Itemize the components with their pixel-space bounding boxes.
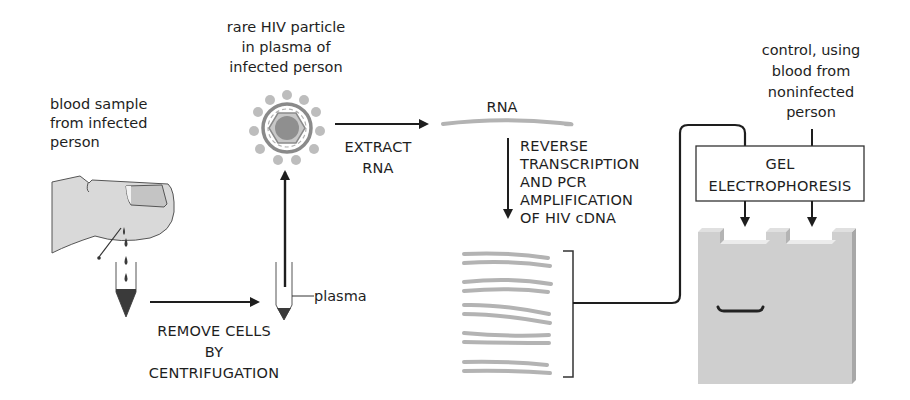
- svg-text:person: person: [50, 134, 100, 150]
- svg-text:ELECTROPHORESIS: ELECTROPHORESIS: [709, 178, 852, 194]
- svg-text:REMOVE CELLS: REMOVE CELLS: [157, 323, 271, 339]
- rna-label: RNA: [487, 99, 518, 115]
- svg-text:RNA: RNA: [362, 160, 393, 176]
- svg-text:control, using: control, using: [762, 42, 861, 58]
- finger-icon: [52, 176, 174, 253]
- rt-pcr-label: REVERSE TRANSCRIPTION AND PCR AMPLIFICAT…: [519, 138, 640, 226]
- svg-text:person: person: [786, 104, 836, 120]
- amplified-cdna-strands: [464, 254, 551, 374]
- svg-text:EXTRACT: EXTRACT: [344, 139, 411, 155]
- svg-text:AMPLIFICATION: AMPLIFICATION: [520, 192, 633, 208]
- svg-text:OF HIV cDNA: OF HIV cDNA: [520, 210, 616, 226]
- rna-strand: [443, 120, 571, 124]
- svg-text:REVERSE: REVERSE: [520, 138, 588, 154]
- svg-text:noninfected: noninfected: [768, 84, 854, 100]
- svg-text:AND PCR: AND PCR: [520, 174, 587, 190]
- gel-slab: [698, 228, 856, 384]
- blood-sample-label: blood sample from infected person: [50, 96, 148, 150]
- cdna-bracket: [563, 251, 573, 377]
- hiv-rt-pcr-diagram: blood sample from infected person REMOVE…: [0, 0, 910, 400]
- blood-tube-icon: [116, 262, 136, 317]
- svg-text:in plasma of: in plasma of: [241, 39, 331, 55]
- svg-text:BY: BY: [205, 344, 223, 360]
- svg-text:rare HIV particle: rare HIV particle: [227, 19, 345, 35]
- remove-cells-label: REMOVE CELLS BY CENTRIFUGATION: [149, 323, 280, 381]
- plasma-tube-icon: [276, 262, 314, 320]
- extract-rna-label: EXTRACT RNA: [344, 139, 411, 176]
- svg-text:from infected: from infected: [50, 115, 147, 131]
- plasma-label: plasma: [314, 288, 367, 304]
- svg-text:infected person: infected person: [229, 59, 342, 75]
- svg-text:GEL: GEL: [765, 156, 794, 172]
- svg-text:TRANSCRIPTION: TRANSCRIPTION: [519, 156, 640, 172]
- svg-text:blood sample: blood sample: [50, 96, 148, 112]
- hiv-particle-label: rare HIV particle in plasma of infected …: [227, 19, 345, 75]
- gel-electrophoresis-box: GEL ELECTROPHORESIS: [696, 146, 864, 201]
- svg-text:CENTRIFUGATION: CENTRIFUGATION: [149, 365, 280, 381]
- control-label: control, using blood from noninfected pe…: [762, 42, 861, 120]
- hiv-particle-icon: [249, 90, 325, 165]
- svg-text:blood from: blood from: [772, 63, 851, 79]
